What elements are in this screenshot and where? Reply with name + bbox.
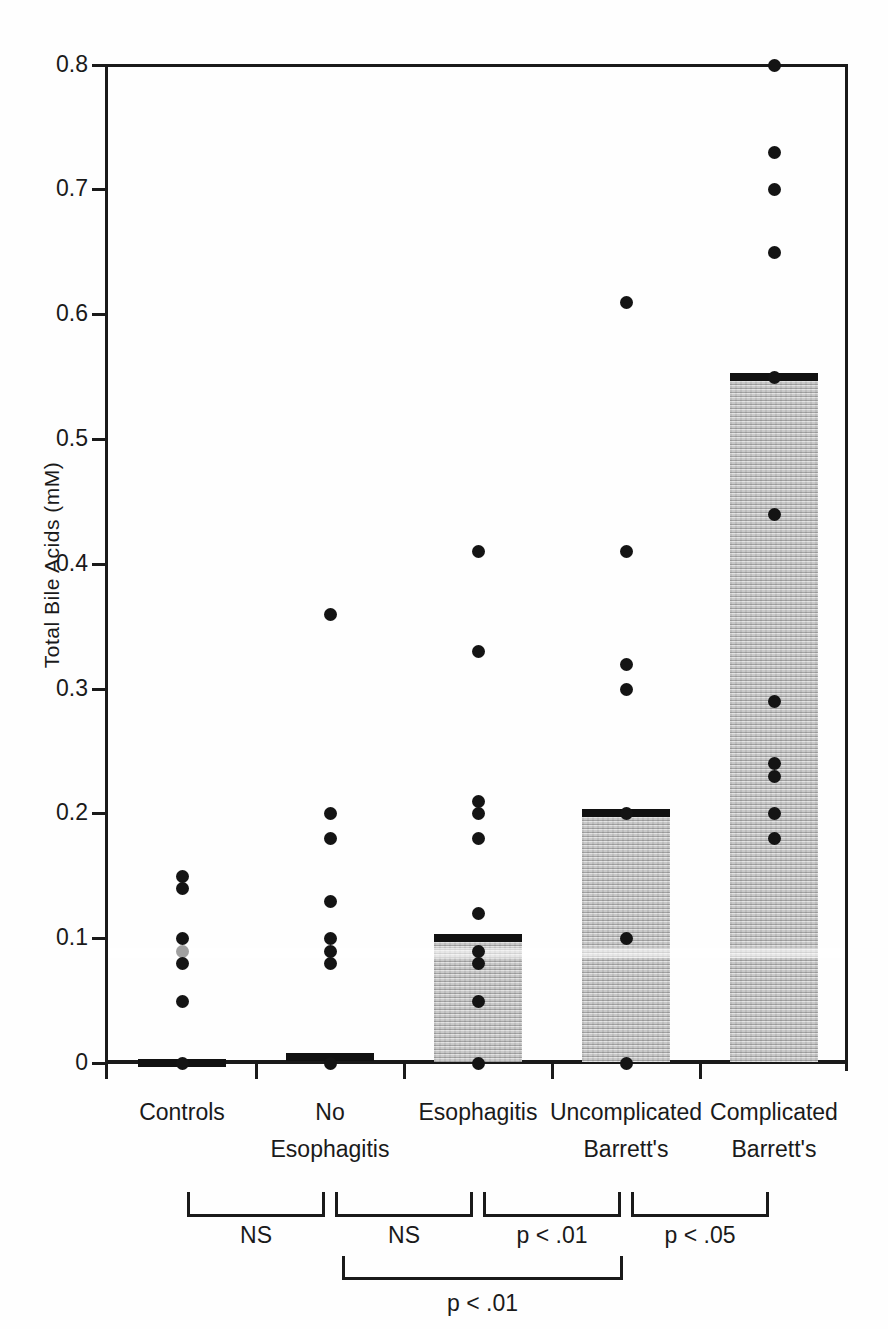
y-axis-line bbox=[105, 64, 108, 1079]
significance-label: p < .05 bbox=[631, 1222, 769, 1248]
data-point bbox=[176, 870, 189, 883]
x-axis-tick bbox=[403, 1064, 406, 1079]
data-point bbox=[472, 1057, 485, 1070]
data-point bbox=[472, 907, 485, 920]
significance-bracket bbox=[335, 1192, 473, 1217]
data-point bbox=[620, 932, 633, 945]
y-axis-tick-label: 0.7 bbox=[28, 177, 88, 200]
y-axis-tick-label: 0.1 bbox=[28, 926, 88, 949]
data-point bbox=[620, 545, 633, 558]
data-point bbox=[768, 770, 781, 783]
data-point bbox=[768, 146, 781, 159]
y-axis-tick bbox=[92, 313, 105, 316]
y-axis-tick-label: 0.3 bbox=[28, 677, 88, 700]
plot-right-border bbox=[845, 64, 848, 1071]
data-point bbox=[768, 59, 781, 72]
y-axis-tick-label: 0.2 bbox=[28, 801, 88, 824]
data-point bbox=[324, 832, 337, 845]
y-axis-tick-label: 0 bbox=[28, 1051, 88, 1074]
median-bar bbox=[434, 934, 522, 942]
data-point bbox=[176, 1057, 189, 1070]
data-point bbox=[324, 608, 337, 621]
data-point bbox=[768, 757, 781, 770]
x-category-label-line: Barrett's bbox=[679, 1131, 869, 1168]
plot-top-border bbox=[105, 64, 848, 67]
y-axis-tick bbox=[92, 937, 105, 940]
x-category-label-line: Esophagitis bbox=[235, 1131, 425, 1168]
data-point bbox=[324, 945, 337, 958]
data-point bbox=[472, 645, 485, 658]
data-point bbox=[472, 957, 485, 970]
data-point bbox=[176, 995, 189, 1008]
data-point bbox=[324, 932, 337, 945]
data-point bbox=[768, 832, 781, 845]
y-axis-tick bbox=[92, 688, 105, 691]
y-axis-tick bbox=[92, 563, 105, 566]
data-point bbox=[768, 371, 781, 384]
data-point bbox=[472, 995, 485, 1008]
data-point bbox=[620, 1057, 633, 1070]
y-axis-tick-label: 0.8 bbox=[28, 53, 88, 76]
significance-label: NS bbox=[187, 1222, 325, 1248]
significance-bracket bbox=[631, 1192, 769, 1217]
data-point bbox=[472, 945, 485, 958]
y-axis-tick bbox=[92, 64, 105, 67]
y-axis-tick bbox=[92, 1062, 105, 1065]
data-point bbox=[768, 183, 781, 196]
y-axis-tick-label: 0.5 bbox=[28, 427, 88, 450]
data-point bbox=[176, 932, 189, 945]
data-point bbox=[620, 658, 633, 671]
data-point bbox=[324, 1057, 337, 1070]
y-axis-tick-label: 0.4 bbox=[28, 552, 88, 575]
significance-label: p < .01 bbox=[342, 1290, 623, 1316]
significance-bracket bbox=[483, 1192, 621, 1217]
median-shade-bar bbox=[730, 380, 818, 1062]
x-axis-tick bbox=[699, 1064, 702, 1079]
data-point bbox=[176, 957, 189, 970]
data-point bbox=[472, 545, 485, 558]
data-point-faded bbox=[176, 945, 189, 958]
significance-label: NS bbox=[335, 1222, 473, 1248]
significance-bracket bbox=[342, 1256, 623, 1280]
data-point bbox=[620, 296, 633, 309]
data-point bbox=[472, 832, 485, 845]
y-axis-tick bbox=[92, 188, 105, 191]
data-point bbox=[768, 246, 781, 259]
data-point bbox=[620, 683, 633, 696]
data-point bbox=[472, 807, 485, 820]
data-point bbox=[768, 695, 781, 708]
data-point bbox=[324, 895, 337, 908]
significance-label: p < .01 bbox=[483, 1222, 621, 1248]
y-axis-tick-label: 0.6 bbox=[28, 302, 88, 325]
x-axis-tick bbox=[551, 1064, 554, 1079]
bile-acids-figure: Total Bile Acids (mM) 00.10.20.30.40.50.… bbox=[0, 0, 888, 1329]
chart-plot-area: 00.10.20.30.40.50.60.70.8ControlsNoEsoph… bbox=[0, 0, 888, 1329]
data-point bbox=[768, 807, 781, 820]
y-axis-tick bbox=[92, 438, 105, 441]
data-point bbox=[324, 807, 337, 820]
significance-bracket bbox=[187, 1192, 325, 1217]
data-point bbox=[176, 882, 189, 895]
data-point bbox=[472, 795, 485, 808]
x-axis-tick bbox=[255, 1064, 258, 1079]
x-category-label-line: Complicated bbox=[679, 1094, 869, 1131]
data-point bbox=[324, 957, 337, 970]
data-point bbox=[768, 508, 781, 521]
data-point bbox=[620, 807, 633, 820]
x-category-label: ComplicatedBarrett's bbox=[679, 1094, 869, 1168]
y-axis-tick bbox=[92, 812, 105, 815]
